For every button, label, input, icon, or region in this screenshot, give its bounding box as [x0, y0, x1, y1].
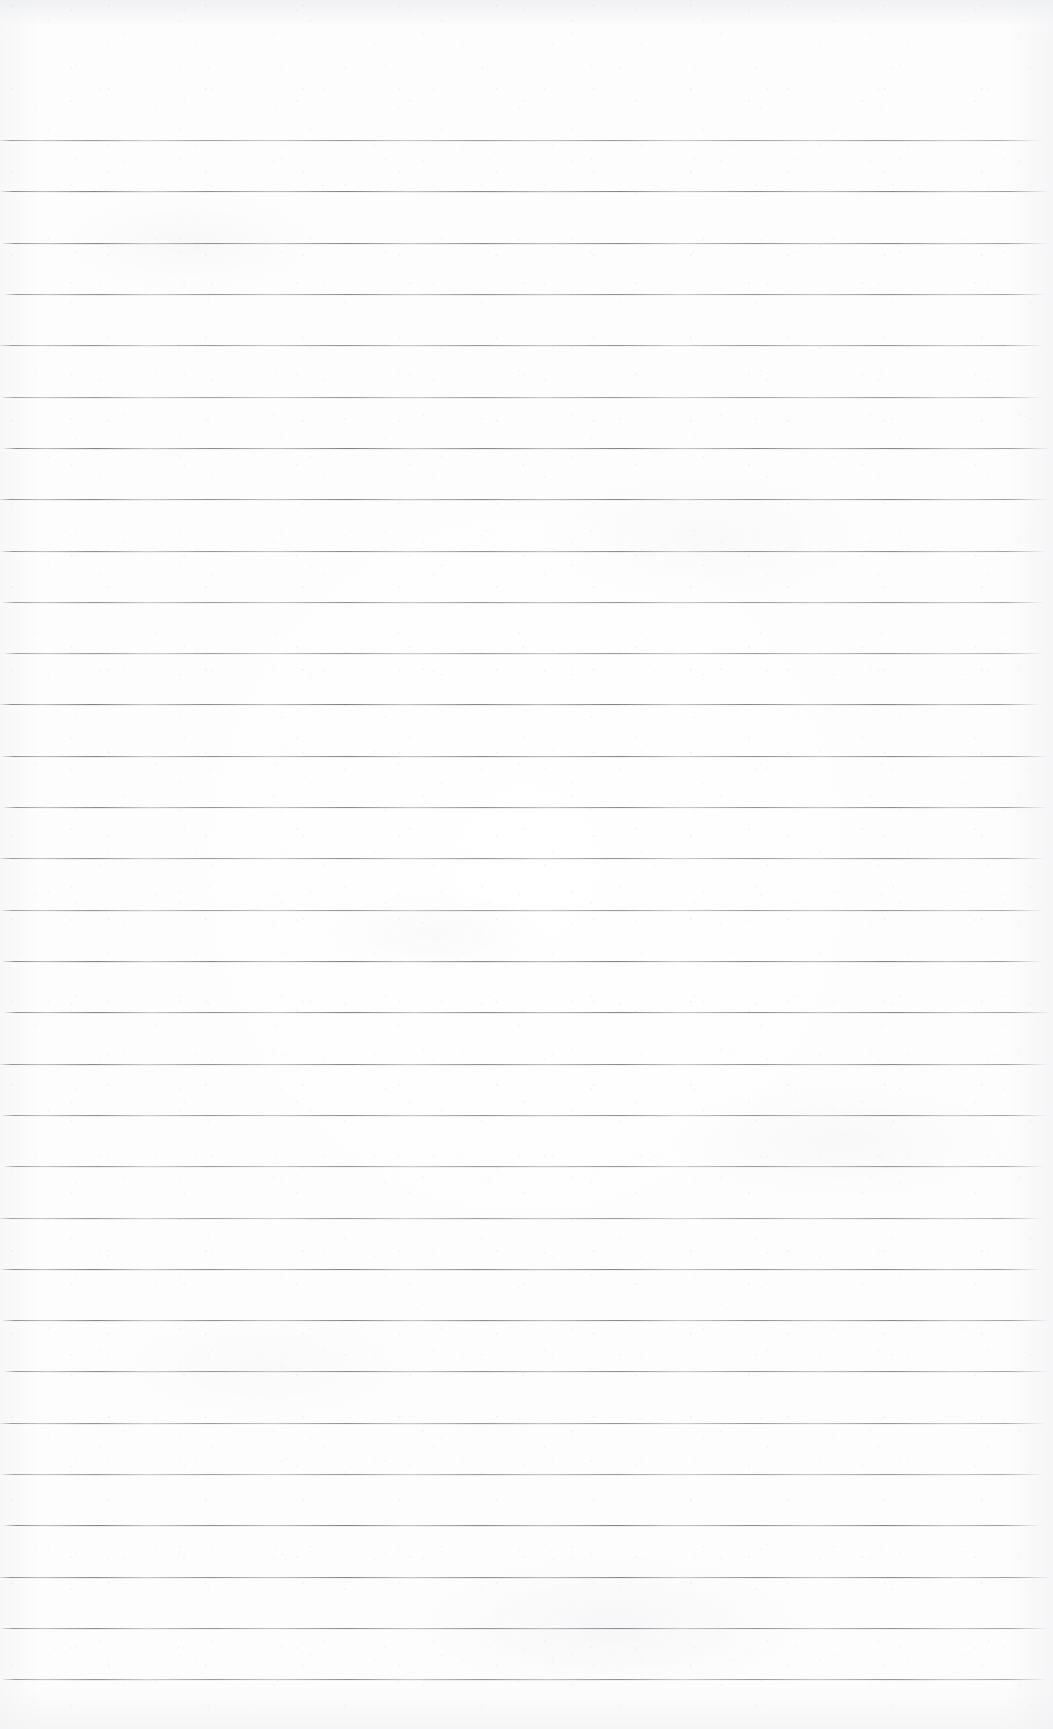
- rule-line: [4, 448, 1051, 449]
- rule-line: [2, 1474, 1044, 1475]
- rule-line: [2, 397, 1042, 398]
- rule-line: [5, 1371, 1048, 1372]
- rule-line: [1, 1628, 1049, 1629]
- rule-line: [5, 653, 1043, 654]
- rule-line: [4, 1525, 1042, 1526]
- rule-line: [0, 858, 1046, 859]
- rule-line: [0, 1218, 1043, 1219]
- rule-line: [3, 243, 1048, 244]
- rule-line: [3, 602, 1045, 603]
- rule-line: [0, 499, 1049, 500]
- rule-line: [4, 807, 1048, 808]
- rule-line: [5, 294, 1046, 295]
- rule-line: [3, 1679, 1047, 1680]
- rule-line: [0, 1423, 1046, 1424]
- scanned-page: [0, 0, 1053, 1729]
- ruled-lines-layer: [0, 0, 1053, 1729]
- rule-line: [5, 1012, 1051, 1013]
- rule-line: [1, 910, 1044, 911]
- rule-line: [2, 756, 1050, 757]
- rule-line: [2, 1115, 1047, 1116]
- rule-line: [0, 345, 1044, 346]
- rule-line: [0, 1064, 1049, 1065]
- rule-line: [1, 191, 1050, 192]
- rule-line: [0, 1577, 1051, 1578]
- rule-line: [3, 961, 1042, 962]
- rule-line: [0, 704, 1041, 705]
- rule-line: [1, 1269, 1041, 1270]
- rule-line: [0, 140, 1041, 141]
- rule-line: [4, 1166, 1045, 1167]
- rule-line: [1, 551, 1047, 552]
- rule-line: [3, 1320, 1050, 1321]
